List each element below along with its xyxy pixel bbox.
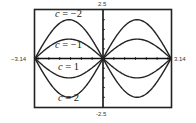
- x-max-label: 3.14: [174, 56, 186, 62]
- y-min-label: -2.5: [96, 111, 106, 117]
- curve-label-c-2: c = 2: [58, 93, 79, 103]
- function-plot: [0, 0, 196, 123]
- curve-label-c-neg2: c = −2: [55, 9, 82, 19]
- curve-label-c-1: c = 1: [58, 62, 79, 72]
- y-max-label: 2.5: [98, 1, 106, 7]
- x-min-label: −3.14: [11, 56, 26, 62]
- curve-label-c-neg1: c = −1: [55, 40, 82, 50]
